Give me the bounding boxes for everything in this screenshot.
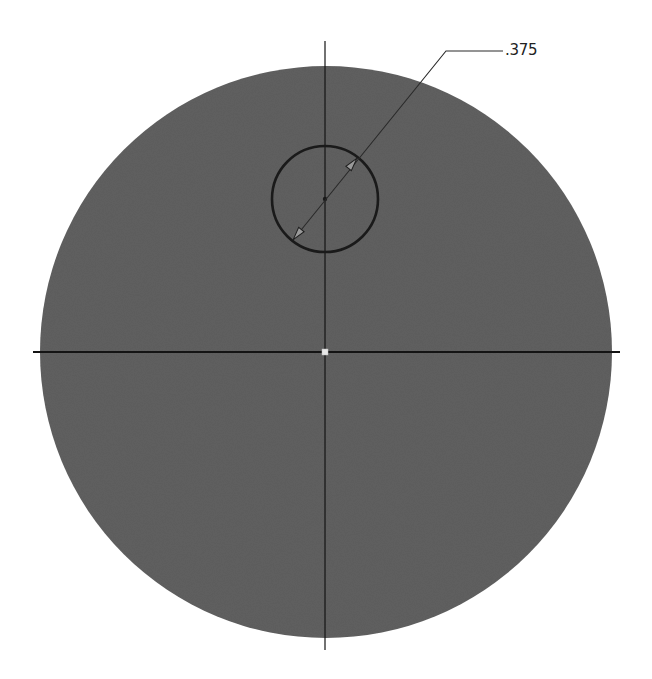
diameter-dimension-value[interactable]: .375	[505, 41, 537, 59]
origin-point[interactable]	[322, 349, 328, 355]
sketch-canvas	[0, 0, 652, 679]
